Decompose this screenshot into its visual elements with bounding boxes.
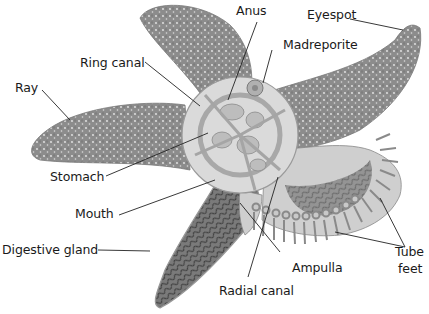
label-anus: Anus xyxy=(236,4,267,18)
label-tube-feet-line1: Tube xyxy=(395,245,424,259)
label-madreporite: Madreporite xyxy=(283,38,358,52)
ray-lower xyxy=(239,190,262,235)
label-digestive-gland: Digestive gland xyxy=(2,243,98,257)
sea-star-illustration xyxy=(0,0,429,314)
label-eyespot: Eyespot xyxy=(307,8,356,22)
label-stomach: Stomach xyxy=(50,170,104,184)
label-mouth: Mouth xyxy=(75,207,114,221)
label-ray: Ray xyxy=(15,81,38,95)
label-ampulla: Ampulla xyxy=(292,261,343,275)
sea-star-diagram: Anus Eyespot Madreporite Ring canal Ray … xyxy=(0,0,429,314)
label-ring-canal: Ring canal xyxy=(80,56,145,70)
label-tube-feet-line2: feet xyxy=(398,262,422,276)
label-radial-canal: Radial canal xyxy=(219,284,294,298)
ray-left xyxy=(32,103,190,170)
